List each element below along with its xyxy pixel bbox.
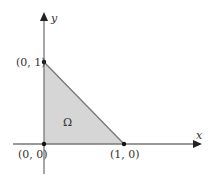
diagram-canvas: x y (0, 0) (1, 0) (0, 1) Ω — [0, 0, 211, 179]
label-1-0: (1, 0) — [110, 148, 140, 161]
y-axis-arrow-icon — [40, 12, 48, 21]
y-axis-label: y — [50, 12, 58, 25]
region-label: Ω — [63, 116, 72, 129]
x-axis-label: x — [196, 129, 203, 142]
diagram-svg: x y (0, 0) (1, 0) (0, 1) Ω — [0, 0, 211, 179]
point-1-0 — [122, 142, 126, 146]
label-0-1: (0, 1) — [16, 56, 46, 69]
label-origin: (0, 0) — [18, 148, 48, 161]
point-origin — [42, 142, 46, 146]
